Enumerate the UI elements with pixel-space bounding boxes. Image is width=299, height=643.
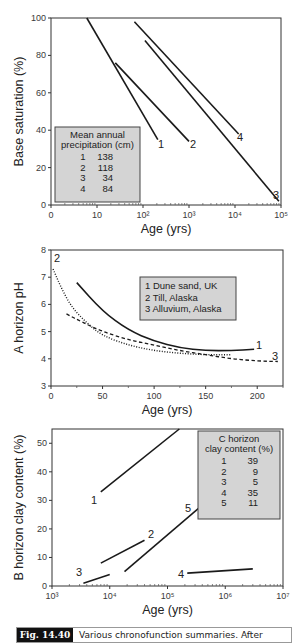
chart-panel-2: 345678050100150200Age (yrs)A horizon pH1… bbox=[12, 245, 283, 417]
series-line-3 bbox=[83, 575, 109, 584]
caption-text: Various chronofunction summaries. After bbox=[79, 628, 263, 643]
y-tick-label: 80 bbox=[36, 50, 46, 60]
y-tick-label: 6 bbox=[41, 299, 46, 309]
x-tick-label: 10³ bbox=[45, 591, 58, 601]
figure-caption: Fig. 14.40 Various chronofunction summar… bbox=[16, 627, 292, 643]
y-tick-label: 40 bbox=[37, 467, 47, 477]
x-tick-label: 10⁵ bbox=[274, 210, 288, 220]
y-tick-label: 0 bbox=[42, 581, 47, 591]
series-label-4: 4 bbox=[237, 131, 243, 143]
legend-key: 1 bbox=[221, 455, 226, 466]
x-axis-title: Age (yrs) bbox=[142, 403, 193, 417]
x-tick-label: 50 bbox=[98, 391, 108, 401]
series-line-4 bbox=[187, 569, 253, 573]
legend-value: 84 bbox=[102, 183, 113, 194]
y-axis-title: Base saturation (%) bbox=[12, 57, 26, 167]
x-tick-label: 10² bbox=[136, 210, 149, 220]
figure-number: Fig. 14.40 bbox=[17, 628, 73, 642]
y-tick-label: 8 bbox=[41, 245, 46, 255]
legend-value: 118 bbox=[98, 162, 113, 173]
x-tick-label: 10⁶ bbox=[218, 591, 232, 601]
x-tick-label: 0 bbox=[48, 391, 53, 401]
y-axis-title: B horizon clay content (%) bbox=[12, 435, 26, 581]
x-axis-title: Age (yrs) bbox=[141, 222, 192, 236]
y-tick-label: 7 bbox=[41, 272, 46, 282]
legend-key: 4 bbox=[221, 487, 226, 498]
y-tick-label: 100 bbox=[31, 13, 46, 23]
x-tick-label: 10⁴ bbox=[103, 591, 117, 601]
legend-key: 5 bbox=[221, 497, 226, 508]
y-tick-label: 10 bbox=[37, 552, 47, 562]
y-tick-label: 40 bbox=[36, 125, 46, 135]
legend-value: 11 bbox=[248, 497, 258, 508]
series-line-5 bbox=[124, 500, 207, 571]
y-tick-label: 30 bbox=[37, 495, 47, 505]
series-line-3 bbox=[145, 40, 279, 201]
legend-entry: 3 Alluvium, Alaska bbox=[145, 303, 222, 314]
x-tick-label: 10⁵ bbox=[161, 591, 175, 601]
x-axis-title: Age (yrs) bbox=[142, 603, 193, 617]
series-label-3: 3 bbox=[273, 189, 279, 201]
legend-value: 9 bbox=[253, 466, 258, 477]
series-label-2: 2 bbox=[190, 138, 196, 150]
series-label-3: 3 bbox=[272, 350, 278, 362]
legend-key: 4 bbox=[80, 183, 85, 194]
x-tick-label: 10⁴ bbox=[228, 210, 242, 220]
y-tick-label: 0 bbox=[41, 200, 46, 210]
legend-value: 34 bbox=[102, 172, 113, 183]
series-line-3 bbox=[66, 314, 277, 362]
legend-value: 5 bbox=[253, 476, 258, 487]
series-label-2: 2 bbox=[54, 252, 60, 264]
x-tick-label: 10³ bbox=[182, 210, 195, 220]
legend-key: 1 bbox=[80, 151, 85, 162]
legend-key: 2 bbox=[80, 162, 85, 173]
y-tick-label: 4 bbox=[41, 354, 46, 364]
series-line-1 bbox=[101, 429, 179, 492]
y-tick-label: 5 bbox=[41, 327, 46, 337]
series-line-4 bbox=[134, 22, 238, 134]
chart-panel-1: 02040608010001010²10³10⁴10⁵Age (yrs)Base… bbox=[12, 13, 288, 236]
y-tick-label: 3 bbox=[41, 381, 46, 391]
y-tick-label: 20 bbox=[37, 524, 47, 534]
legend-title: clay content (%) bbox=[205, 443, 273, 454]
series-label-5: 5 bbox=[185, 502, 191, 514]
y-tick-label: 60 bbox=[36, 88, 46, 98]
legend-value: 39 bbox=[247, 455, 258, 466]
legend-value: 35 bbox=[247, 487, 258, 498]
series-label-1: 1 bbox=[256, 339, 262, 351]
x-tick-label: 100 bbox=[147, 391, 162, 401]
series-label-3: 3 bbox=[76, 566, 82, 578]
x-tick-label: 0 bbox=[48, 210, 53, 220]
y-axis-title: A horizon pH bbox=[12, 282, 26, 354]
series-label-1: 1 bbox=[91, 494, 97, 506]
chart-panel-3: 0102030405010³10⁴10⁵10⁶10⁷Age (yrs)B hor… bbox=[12, 429, 290, 617]
legend-title: precipitation (cm) bbox=[61, 139, 134, 150]
y-tick-label: 20 bbox=[36, 163, 46, 173]
legend-key: 3 bbox=[80, 172, 85, 183]
series-label-2: 2 bbox=[148, 528, 154, 540]
x-tick-label: 10 bbox=[92, 210, 102, 220]
x-tick-label: 200 bbox=[250, 391, 265, 401]
x-tick-label: 10⁷ bbox=[276, 591, 289, 601]
legend-entry: 2 Till, Alaska bbox=[145, 292, 199, 303]
legend-key: 2 bbox=[221, 466, 226, 477]
series-label-4: 4 bbox=[178, 568, 184, 580]
series-label-1: 1 bbox=[158, 138, 164, 150]
legend-entry: 1 Dune sand, UK bbox=[145, 280, 218, 291]
x-tick-label: 150 bbox=[198, 391, 213, 401]
legend-value: 138 bbox=[97, 151, 113, 162]
legend-key: 3 bbox=[221, 476, 226, 487]
y-tick-label: 50 bbox=[37, 438, 47, 448]
